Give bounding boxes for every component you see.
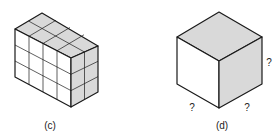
figure-d-label: (d): [216, 120, 228, 131]
diagram-canvas: (c) ? ? ? (d): [0, 0, 279, 139]
edge-label-right: ?: [244, 102, 250, 113]
figure-c-label: (c): [44, 120, 56, 131]
edge-label-left: ?: [189, 102, 195, 113]
edge-label-height: ?: [266, 57, 272, 68]
single-cube: [177, 12, 262, 108]
unit-cube-prism: [15, 13, 98, 107]
